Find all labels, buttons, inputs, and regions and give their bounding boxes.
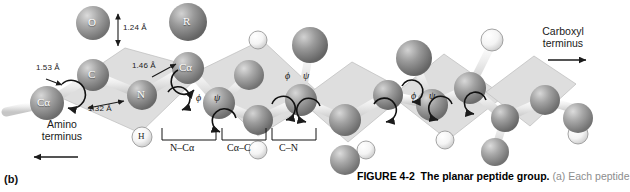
caption-title: The planar peptide group. [421,170,550,182]
atom-nitrogen [491,104,519,132]
atom-hydrogen [481,29,503,51]
atom-oxygen [330,145,360,175]
atom-carbon [530,85,560,115]
bond-length-n-ca: 1.46 Å [132,62,156,71]
atom-rgroup [292,27,328,63]
atom-rgroup [396,40,432,76]
bracket-group [162,128,316,140]
atom-nitrogen [243,105,273,135]
bond-length-c-n: 1.32 Å [88,105,112,114]
amino-terminus-label: Amino terminus [24,119,100,143]
amino-terminus-line1: Amino [24,119,100,131]
torsion-psi-2: ψ [303,70,309,81]
atom-nitrogen [373,80,403,110]
atom-oxygen [481,138,509,166]
carboxyl-terminus-label: Carboxyl terminus [524,26,602,50]
atom-hydrogen [357,141,375,159]
bracket-label-n-ca: N–Cα [170,142,194,153]
atom-carbon [329,104,361,136]
torsion-psi-1: ψ [214,92,220,103]
atom-carbon [285,84,317,116]
amino-terminus-line2: terminus [24,131,100,143]
bond-length-arrow [46,79,62,85]
torsion-phi-2: ϕ [285,70,290,81]
carboxyl-terminus-line2: terminus [524,38,602,50]
caption-body: (a) Each peptide [552,170,629,182]
bond-length-ca-c: 1.53 Å [36,64,60,73]
bracket-label-ca-c: Cα–C [227,142,251,153]
caption-figure-number: FIGURE 4-2 [357,170,415,182]
figure-caption: FIGURE 4-2 The planar peptide group. (a)… [357,170,630,182]
bracket-label-c-n: C–N [279,142,298,153]
atom-label-n1: N [137,88,145,100]
atom-label-c1: C [88,68,95,80]
carboxyl-terminus-line1: Carboxyl [524,26,602,38]
atom-hydrogen [249,31,267,49]
torsion-phi-3: ϕ [411,90,416,101]
panel-label: (b) [4,173,18,185]
atom-hydrogen [249,141,267,159]
atom-hydrogen [436,131,454,149]
atom-label-o1: O [88,16,96,28]
atom-carbon [454,72,486,104]
bracket [272,128,316,140]
atom-label-r1: R [183,15,190,27]
atom-oxygen [234,60,264,90]
atom-label-ca2: Cα [179,61,192,73]
bracket [162,128,216,140]
torsion-psi-3: ψ [429,90,435,101]
atom-label-ca1: Cα [37,96,50,108]
atom-oxygen [563,103,593,133]
atom-label-h1: H [138,131,145,141]
bond-length-c-o: 1.24 Å [123,24,147,33]
torsion-phi-1: ϕ [196,92,201,103]
